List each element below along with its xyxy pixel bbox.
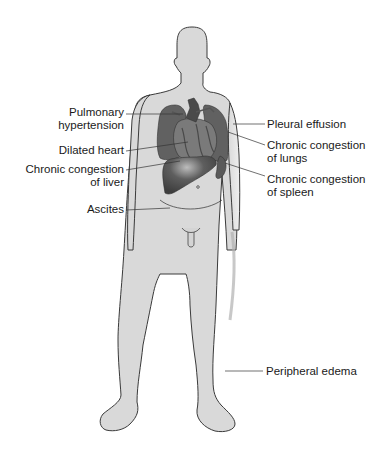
label-peripheral-edema: Peripheral edema: [266, 365, 357, 378]
body-diagram: [0, 0, 378, 459]
label-chronic-congestion-lungs: Chronic congestion of lungs: [267, 139, 365, 165]
label-dilated-heart: Dilated heart: [59, 144, 124, 157]
body-silhouette: [100, 27, 240, 432]
label-pulmonary-hypertension: Pulmonary hypertension: [58, 106, 124, 132]
human-body-outline: [100, 27, 237, 432]
label-ascites: Ascites: [87, 203, 124, 216]
label-pleural-effusion: Pleural effusion: [267, 118, 346, 131]
label-chronic-congestion-spleen: Chronic congestion of spleen: [267, 173, 365, 199]
label-chronic-congestion-liver: Chronic congestion of liver: [26, 163, 124, 189]
